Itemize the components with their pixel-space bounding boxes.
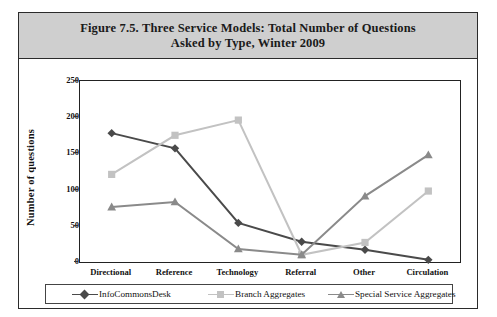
x-axis-ticks: DirectionalReferenceTechnologyReferralOt… — [79, 265, 459, 281]
y-tick-mark — [74, 116, 78, 117]
x-tick-label: Circulation — [406, 267, 448, 277]
data-point-marker — [424, 150, 433, 158]
title-line-1: Figure 7.5. Three Service Models: Total … — [80, 21, 416, 36]
y-tick-mark — [74, 80, 78, 81]
data-point-marker — [424, 256, 432, 264]
series-2 — [108, 116, 432, 258]
title-line-2: Asked by Type, Winter 2009 — [80, 36, 416, 51]
data-point-marker — [425, 187, 432, 194]
chart-legend: InfoCommonsDeskBranch AggregatesSpecial … — [45, 284, 453, 304]
legend-item[interactable]: Special Service Aggregates — [328, 289, 456, 299]
data-point-marker — [361, 192, 370, 200]
data-point-marker — [361, 245, 369, 253]
series-line — [112, 120, 429, 255]
chart-container: Number of questions 050100150200250 Dire… — [19, 59, 477, 310]
y-tick-mark — [74, 261, 78, 262]
legend-label: Branch Aggregates — [235, 289, 305, 299]
data-point-marker — [235, 116, 242, 123]
data-point-marker — [107, 129, 115, 137]
data-point-marker — [108, 171, 115, 178]
plot-area — [79, 80, 461, 263]
y-tick-mark — [74, 152, 78, 153]
x-tick-label: Other — [353, 267, 375, 277]
legend-label: InfoCommonsDesk — [99, 289, 171, 299]
series-3 — [107, 150, 432, 258]
x-tick-label: Directional — [90, 267, 131, 277]
series-layer — [80, 81, 460, 262]
y-axis-title: Number of questions — [25, 129, 41, 226]
y-tick-mark — [74, 189, 78, 190]
series-line — [112, 155, 429, 255]
x-tick-label: Technology — [216, 267, 258, 277]
x-tick-label: Referral — [285, 267, 316, 277]
legend-item[interactable]: InfoCommonsDesk — [72, 289, 171, 299]
y-axis-ticks: 050100150200250 — [43, 80, 79, 261]
figure-frame: Figure 7.5. Three Service Models: Total … — [18, 12, 478, 309]
legend-swatch-triangle-icon — [328, 289, 354, 299]
legend-item[interactable]: Branch Aggregates — [208, 289, 305, 299]
x-tick-label: Reference — [156, 267, 193, 277]
legend-label: Special Service Aggregates — [355, 289, 456, 299]
legend-swatch-diamond-icon — [72, 289, 98, 299]
data-point-marker — [361, 239, 368, 246]
legend-swatch-square-icon — [208, 289, 234, 299]
data-point-marker — [297, 238, 305, 246]
figure-title-band: Figure 7.5. Three Service Models: Total … — [19, 13, 477, 59]
series-line — [112, 133, 429, 260]
series-1 — [107, 129, 432, 264]
y-tick-mark — [74, 225, 78, 226]
data-point-marker — [171, 132, 178, 139]
page-title: Figure 7.5. Three Service Models: Total … — [62, 21, 434, 51]
